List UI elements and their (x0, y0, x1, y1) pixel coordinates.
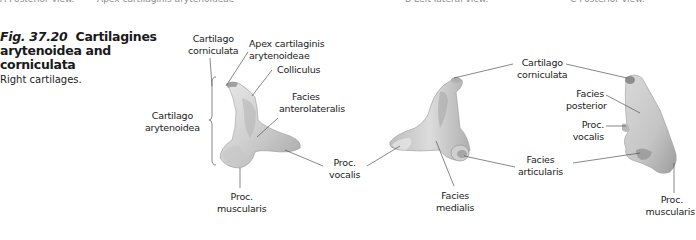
label-apex-cartilaginis-arytenoideae: Apex cartilaginis arytenoideae (249, 38, 325, 61)
bracket-cartilago-arytenoidea (209, 77, 216, 165)
label-proc-vocalis-center: Proc. vocalis (329, 157, 360, 180)
label-proc-vocalis-right: Proc. vocalis (566, 119, 604, 142)
leader-corniculata-to-middle (454, 64, 513, 78)
label-facies-posterior: Facies posterior (566, 88, 604, 111)
label-proc-muscularis-left: Proc. muscularis (217, 191, 266, 214)
leader-proc-vocalis-to-left (285, 150, 323, 166)
cartilage-posterior-view (622, 75, 676, 173)
label-colliculus: Colliculus (277, 64, 320, 76)
leader-proc-vocalis-to-middle (367, 146, 400, 166)
label-facies-anterolateralis: Facies anterolateralis (279, 91, 345, 114)
label-cartilago-corniculata-left: Cartilago corniculata (188, 33, 239, 56)
leader-apex (226, 52, 248, 86)
leader-facies-articularis-to-middle (464, 156, 515, 167)
label-proc-muscularis-right: Proc. muscularis (640, 194, 695, 217)
label-facies-articularis: Facies articularis (518, 154, 563, 177)
leader-colliculus (252, 70, 272, 96)
label-cartilago-corniculata-center: Cartilago corniculata (517, 57, 568, 80)
label-cartilago-arytenoidea: Cartilago arytenoidea (145, 110, 200, 133)
cartilage-medial-view (390, 77, 470, 161)
leader-corniculata-to-right (566, 64, 627, 78)
label-facies-medialis: Facies medialis (436, 190, 474, 213)
